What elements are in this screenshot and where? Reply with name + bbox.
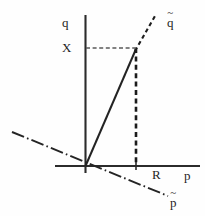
supply-ray [86, 49, 137, 166]
demand-curve-label-base: p [170, 196, 177, 209]
quantity-level-label: X [62, 41, 71, 54]
supply-curve-label-base: q [167, 16, 174, 29]
demand-curve-label-p-tilde: ~ p [170, 190, 177, 209]
demand-curve-p-tilde [12, 132, 168, 196]
y-axis-label: q [62, 16, 69, 29]
x-axis-label: p [184, 169, 191, 182]
figure-canvas: q X ~ q R p ~ p [0, 0, 205, 216]
price-level-label: R [152, 168, 161, 181]
supply-curve-extension-q-tilde [135, 16, 155, 51]
supply-curve-label-q-tilde: ~ q [167, 10, 174, 29]
supply-demand-diagram [0, 0, 205, 216]
